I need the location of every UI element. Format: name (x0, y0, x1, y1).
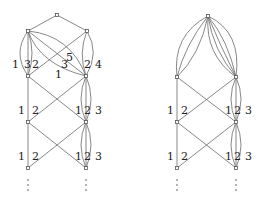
edge-label: 1 (167, 150, 174, 163)
node-top (56, 14, 59, 17)
vertical-ellipsis-icon (235, 179, 237, 191)
node (235, 167, 238, 170)
edge-label: 1 (18, 150, 25, 163)
edge-label: 1 (55, 68, 62, 81)
edge-label: 1 (18, 104, 25, 117)
edge-label: 3 (61, 58, 68, 71)
node (27, 167, 30, 170)
vertical-ellipsis-icon (176, 179, 178, 191)
edge-label: 1 (167, 104, 174, 117)
node (176, 167, 179, 170)
node (27, 121, 30, 124)
edge-label: 3 (95, 104, 102, 117)
node (176, 121, 179, 124)
edge-label: 1 (225, 104, 232, 117)
edge-label: 2 (32, 104, 39, 117)
node (235, 121, 238, 124)
edge-label: 3 (245, 104, 252, 117)
edge-label: 2 (84, 150, 91, 163)
edge-label: 2 (181, 104, 188, 117)
edge-label: 3 (245, 150, 252, 163)
edge-label: 1 (12, 58, 19, 71)
node (85, 75, 88, 78)
left-graph: 1 3 2 5 3 1 2 4 1 2 1 2 3 1 2 1 2 3 (12, 14, 102, 191)
edge-label: 2 (84, 58, 91, 71)
node (27, 75, 30, 78)
edge-label: 3 (95, 150, 102, 163)
edge (208, 16, 237, 77)
edge (176, 16, 208, 77)
edge (177, 16, 208, 77)
node (235, 76, 238, 79)
edge-label: 2 (32, 150, 39, 163)
edge-label: 2 (234, 104, 241, 117)
diagram-canvas: 1 3 2 5 3 1 2 4 1 2 1 2 3 1 2 1 2 3 (0, 0, 260, 204)
edge-label: 1 (75, 150, 82, 163)
edge-label: 1 (225, 150, 232, 163)
edge-label: 2 (181, 150, 188, 163)
edge-label: 1 (75, 104, 82, 117)
node (86, 30, 89, 33)
edge-label: 2 (234, 150, 241, 163)
edge (177, 16, 208, 77)
edge (28, 15, 57, 31)
node (176, 76, 179, 79)
edge (57, 15, 87, 31)
edge-label: 4 (95, 58, 102, 71)
vertical-ellipsis-icon (85, 179, 87, 191)
vertical-ellipsis-icon (27, 179, 29, 191)
edge-label: 3 (24, 58, 31, 71)
node-top (207, 15, 210, 18)
node (85, 121, 88, 124)
edge-label: 2 (84, 104, 91, 117)
right-graph: 1 2 1 2 3 1 2 1 2 3 (167, 15, 252, 191)
edge-label: 2 (32, 58, 39, 71)
node (27, 30, 30, 33)
node (85, 167, 88, 170)
